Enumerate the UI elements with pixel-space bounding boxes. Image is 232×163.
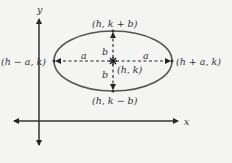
top-vertex-label: (h, k + b): [92, 18, 138, 29]
right-a-label: a: [143, 50, 149, 61]
x-axis-label: x: [184, 116, 190, 127]
right-vertex-label: (h + a, k): [176, 56, 221, 67]
bottom-vertex-label: (h, k − b): [92, 95, 138, 106]
bottom-vertex-point: [112, 90, 115, 93]
left-a-label: a: [81, 50, 87, 61]
ellipse-diagram: y x (h, k + b) (h, k − b) (h − a, k) (h …: [0, 0, 232, 163]
top-vertex-point: [112, 30, 115, 33]
top-b-label: b: [102, 46, 108, 57]
center-label: (h, k): [117, 64, 143, 75]
y-axis-label: y: [36, 4, 43, 15]
left-vertex-point: [53, 60, 56, 63]
center-point-icon: [109, 57, 117, 65]
left-vertex-label: (h − a, k): [1, 56, 46, 67]
right-vertex-point: [171, 60, 174, 63]
bottom-b-label: b: [102, 69, 108, 80]
